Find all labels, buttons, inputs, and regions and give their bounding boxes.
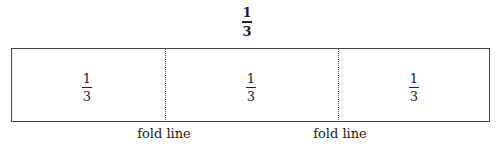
- fraction-bar: [246, 87, 256, 88]
- denominator: 3: [410, 90, 418, 103]
- title-denominator: 3: [242, 25, 251, 38]
- fraction-bar: [242, 21, 252, 23]
- numerator: 1: [410, 72, 418, 85]
- section-fraction-2: 1 3: [246, 72, 256, 103]
- section-fraction-3: 1 3: [409, 72, 419, 103]
- fold-line-2: [338, 48, 339, 122]
- fold-line-label-2: fold line: [313, 126, 367, 141]
- denominator: 3: [83, 90, 91, 103]
- numerator: 1: [83, 72, 91, 85]
- title-numerator: 1: [242, 6, 251, 19]
- fold-line-label-1: fold line: [137, 126, 191, 141]
- fraction-bar: [409, 87, 419, 88]
- title-fraction: 1 3: [242, 6, 252, 38]
- numerator: 1: [247, 72, 255, 85]
- section-fraction-1: 1 3: [82, 72, 92, 103]
- fraction-bar: [82, 87, 92, 88]
- denominator: 3: [247, 90, 255, 103]
- fold-line-1: [165, 48, 166, 122]
